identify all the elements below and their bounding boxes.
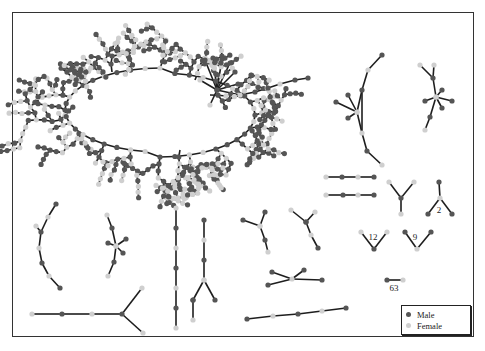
male-node xyxy=(38,229,43,234)
female-node xyxy=(165,49,170,54)
male-node xyxy=(93,61,98,66)
female-node xyxy=(319,308,324,313)
male-node xyxy=(176,154,181,159)
male-node xyxy=(56,135,61,140)
female-node xyxy=(96,182,101,187)
female-node xyxy=(414,246,419,251)
edge xyxy=(433,78,436,97)
male-node xyxy=(120,250,125,255)
female-node xyxy=(23,125,28,130)
female-node xyxy=(159,33,164,38)
female-node xyxy=(32,82,37,87)
male-node xyxy=(422,98,427,103)
male-node xyxy=(371,174,376,179)
female-node xyxy=(172,184,177,189)
male-node xyxy=(59,311,64,316)
male-node xyxy=(248,99,253,104)
male-node xyxy=(260,135,265,140)
male-node xyxy=(275,93,280,98)
male-node xyxy=(5,148,10,153)
male-node xyxy=(50,119,55,124)
female-node xyxy=(12,100,17,105)
edge xyxy=(362,133,367,151)
male-node xyxy=(227,60,232,65)
male-node xyxy=(262,237,267,242)
male-node xyxy=(213,146,218,151)
male-node xyxy=(87,89,92,94)
female-node xyxy=(277,81,282,86)
female-node xyxy=(100,171,105,176)
male-node xyxy=(115,156,120,161)
female-node xyxy=(199,165,204,170)
male-node xyxy=(73,82,78,87)
legend-item-male: Male xyxy=(406,309,466,320)
female-node xyxy=(230,86,235,91)
male-node xyxy=(103,74,108,79)
female-node xyxy=(411,179,416,184)
female-node xyxy=(365,67,370,72)
edge xyxy=(368,55,382,70)
female-node xyxy=(81,55,86,60)
male-node xyxy=(74,61,79,66)
male-node xyxy=(218,172,223,177)
male-node xyxy=(6,102,11,107)
male-node xyxy=(64,69,69,74)
male-node xyxy=(398,195,403,200)
legend-item-female: Female xyxy=(406,320,466,331)
female-node xyxy=(188,159,193,164)
edge xyxy=(362,70,368,90)
female-node xyxy=(232,94,237,99)
male-node xyxy=(272,105,277,110)
female-node xyxy=(160,186,165,191)
female-node xyxy=(160,53,165,58)
male-node xyxy=(85,145,90,150)
male-node xyxy=(268,94,273,99)
female-node xyxy=(422,127,427,132)
male-node xyxy=(256,127,261,132)
female-node xyxy=(121,156,126,161)
female-node xyxy=(108,172,113,177)
male-node xyxy=(62,107,67,112)
female-node xyxy=(215,180,220,185)
female-node xyxy=(250,143,255,148)
male-node xyxy=(173,265,178,270)
male-node xyxy=(225,83,230,88)
male-node xyxy=(224,70,229,75)
male-node xyxy=(240,141,245,146)
female-node xyxy=(154,36,159,41)
female-node xyxy=(270,121,275,126)
female-node xyxy=(204,44,209,49)
male-node xyxy=(169,46,174,51)
edge xyxy=(420,65,433,78)
female-node xyxy=(121,30,126,35)
female-node xyxy=(75,136,80,141)
male-node xyxy=(39,260,44,265)
male-node xyxy=(99,148,104,153)
male-node xyxy=(333,99,338,104)
female-node xyxy=(126,67,131,72)
male-node xyxy=(173,190,178,195)
female-node xyxy=(64,145,69,150)
male-node xyxy=(195,169,200,174)
male-node xyxy=(54,77,59,82)
male-node xyxy=(157,204,162,209)
female-node xyxy=(195,191,200,196)
male-node xyxy=(26,110,31,115)
male-node xyxy=(36,77,41,82)
male-node xyxy=(32,100,37,105)
female-node xyxy=(60,150,65,155)
female-node xyxy=(187,152,192,157)
male-node xyxy=(215,166,220,171)
male-node xyxy=(215,93,220,98)
edge xyxy=(298,311,322,314)
female-node xyxy=(42,107,47,112)
male-node xyxy=(210,161,215,166)
female-node xyxy=(83,140,88,145)
female-node xyxy=(7,111,12,116)
male-node xyxy=(40,89,45,94)
male-node xyxy=(187,181,192,186)
female-node xyxy=(308,232,313,237)
male-node xyxy=(439,105,444,110)
male-node xyxy=(213,71,218,76)
male-node xyxy=(12,141,17,146)
